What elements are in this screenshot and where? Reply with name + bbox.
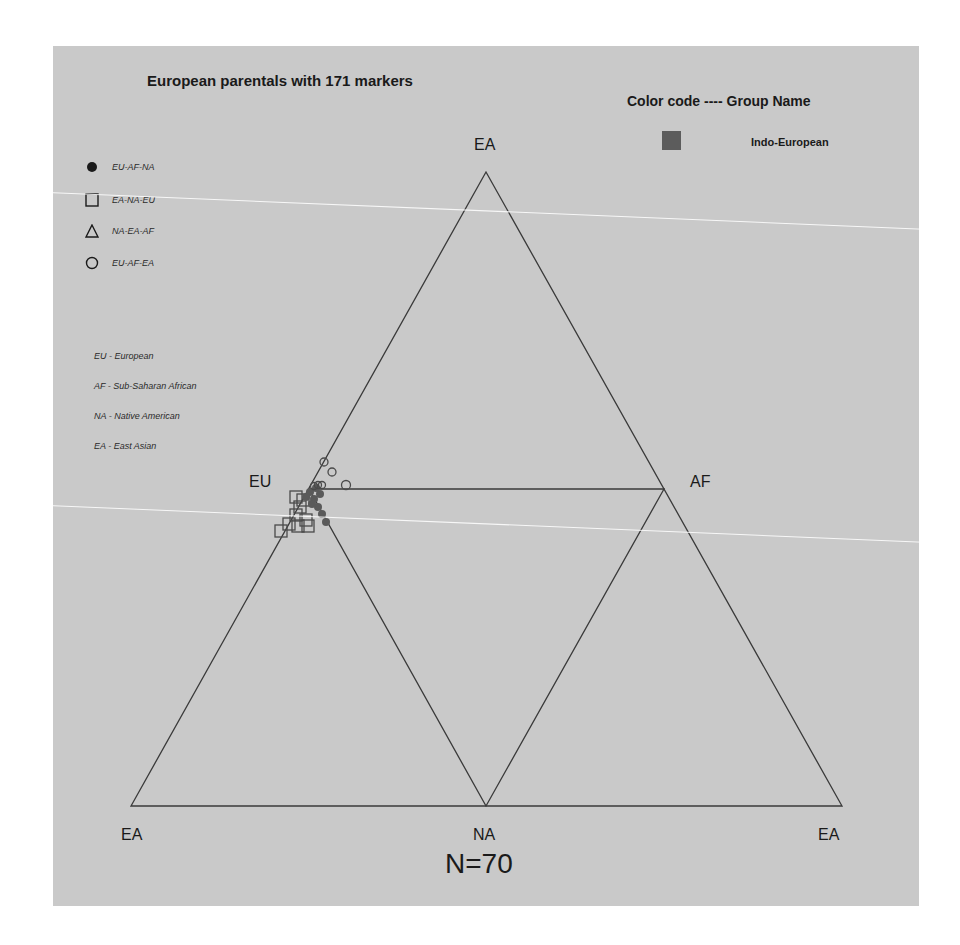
triangle-frame (131, 172, 842, 806)
vertex-label-bottom-right: EA (818, 826, 840, 843)
vertex-label-eu: EU (249, 473, 271, 490)
vertex-label-bottom-left: EA (121, 826, 143, 843)
data-points (275, 458, 351, 537)
ternary-plot: EA EU AF EA NA EA (0, 0, 960, 945)
vertex-label-top: EA (474, 136, 496, 153)
sample-size-label: N=70 (445, 848, 513, 880)
vertex-label-na: NA (473, 826, 496, 843)
vertex-label-af: AF (690, 473, 711, 490)
